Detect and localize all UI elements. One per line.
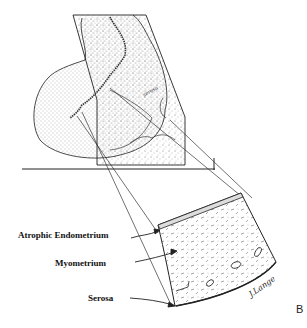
specimen-block — [22, 15, 215, 170]
label-atrophic-endometrium: Atrophic Endometrium — [18, 230, 109, 240]
uterus-section-illustration: serosa Atrophic Endometrium Myometrium S… — [0, 0, 307, 328]
illustration-svg — [0, 0, 307, 328]
panel-letter: B — [296, 303, 303, 315]
label-serosa: Serosa — [88, 293, 113, 303]
label-myometrium: Myometrium — [55, 258, 106, 268]
